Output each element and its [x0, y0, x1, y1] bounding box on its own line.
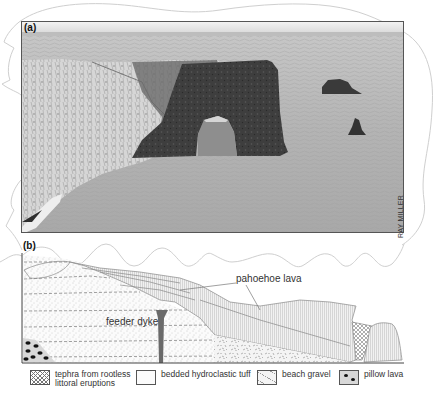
crosshatch-swatch-icon [30, 370, 50, 385]
stipple-swatch-icon [136, 370, 156, 385]
legend-item-tephra: tephra from rootless littoral eruptions [30, 370, 131, 388]
legend-item-pillow: pillow lava [339, 370, 403, 385]
geological-cross-section [0, 230, 444, 370]
legend-label-pillow: pillow lava [364, 370, 403, 379]
legend-label-tephra-line2: littoral eruptions [55, 379, 131, 388]
legend-label-gravel: beach gravel [282, 370, 331, 379]
coastal-arch-photograph [21, 21, 404, 233]
legend-item-gravel: beach gravel [257, 370, 331, 385]
gravel-swatch-icon [257, 370, 277, 385]
dots-swatch-icon [339, 370, 359, 385]
pahoehoe-lava-label: pahoehoe lava [236, 273, 302, 284]
legend-label-tuff: bedded hydroclastic tuff [161, 370, 251, 379]
feeder-dyke-label: feeder dyke [106, 316, 158, 327]
legend: tephra from rootless littoral eruptions … [0, 368, 444, 394]
legend-item-tuff: bedded hydroclastic tuff [136, 370, 251, 385]
panel-a-label: (a) [24, 22, 36, 33]
